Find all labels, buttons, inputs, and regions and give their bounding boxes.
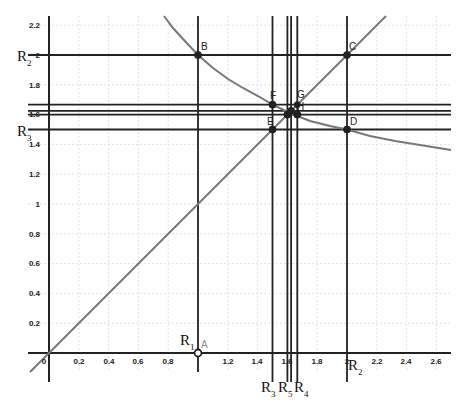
- svg-text:0.8: 0.8: [162, 357, 174, 366]
- svg-text:1: 1: [36, 200, 41, 209]
- svg-text:2.2: 2.2: [371, 357, 383, 366]
- svg-text:2: 2: [358, 367, 363, 377]
- point-D[interactable]: [344, 126, 351, 133]
- svg-text:R: R: [180, 332, 190, 348]
- line-y-equals-x: [30, 16, 386, 372]
- label-H: H: [297, 101, 304, 112]
- horizontal-lines: [28, 55, 451, 130]
- point-B[interactable]: [195, 52, 202, 59]
- r-label-bottom-4: R 4: [294, 379, 309, 399]
- label-A: A: [201, 339, 208, 350]
- svg-text:R: R: [261, 379, 271, 395]
- point-F[interactable]: [269, 101, 276, 108]
- svg-text:1.4: 1.4: [251, 357, 263, 366]
- svg-text:1.2: 1.2: [29, 170, 41, 179]
- svg-text:R: R: [294, 379, 304, 395]
- svg-text:1.8: 1.8: [29, 81, 41, 90]
- svg-text:R: R: [348, 357, 358, 373]
- svg-text:1: 1: [190, 342, 195, 352]
- plot: A B C D E F G H 0.2 0.4 0.6 0.8 1 1.2 1.…: [0, 0, 466, 413]
- x-tick-labels: 0 0.2 0.4 0.6 0.8 1.2 1.4 1.6 1.8 2 2.2 …: [42, 357, 442, 366]
- svg-text:R: R: [17, 123, 27, 139]
- svg-text:2: 2: [27, 58, 32, 68]
- svg-text:3: 3: [271, 389, 276, 399]
- label-D: D: [350, 116, 357, 127]
- svg-text:R: R: [278, 379, 288, 395]
- svg-text:0.4: 0.4: [103, 357, 115, 366]
- svg-text:3: 3: [27, 133, 32, 143]
- svg-text:1.8: 1.8: [311, 357, 323, 366]
- point-A[interactable]: [195, 350, 202, 357]
- r-label-bottom-3: R 3: [261, 379, 276, 399]
- point-golden-2[interactable]: [288, 107, 295, 114]
- label-C: C: [349, 41, 356, 52]
- r-label-left-3: R 3: [17, 123, 32, 143]
- svg-text:0.4: 0.4: [29, 289, 41, 298]
- svg-text:1.6: 1.6: [281, 357, 293, 366]
- svg-text:0.2: 0.2: [29, 319, 41, 328]
- svg-text:0.8: 0.8: [29, 230, 41, 239]
- svg-text:0: 0: [42, 357, 47, 366]
- svg-text:0.6: 0.6: [29, 259, 41, 268]
- svg-text:1.2: 1.2: [222, 357, 234, 366]
- point-E[interactable]: [269, 126, 276, 133]
- label-G: G: [297, 89, 305, 100]
- r-label-1: R 1: [180, 332, 195, 352]
- svg-text:2: 2: [36, 51, 41, 60]
- svg-text:2.4: 2.4: [400, 357, 412, 366]
- svg-text:1.6: 1.6: [29, 110, 41, 119]
- svg-text:2.6: 2.6: [430, 357, 442, 366]
- svg-text:0.6: 0.6: [132, 357, 144, 366]
- point-C[interactable]: [344, 52, 351, 59]
- svg-text:0.2: 0.2: [73, 357, 85, 366]
- grid: [28, 16, 451, 372]
- r-label-left-2: R 2: [17, 48, 32, 68]
- label-B: B: [201, 41, 208, 52]
- svg-text:R: R: [17, 48, 27, 64]
- svg-text:2.2: 2.2: [29, 21, 41, 30]
- svg-text:5: 5: [288, 389, 293, 399]
- r-label-bottom-2: R 2: [348, 357, 363, 377]
- svg-text:4: 4: [304, 389, 309, 399]
- vertical-lines: [198, 16, 347, 382]
- label-E: E: [267, 116, 274, 127]
- label-F: F: [270, 90, 276, 101]
